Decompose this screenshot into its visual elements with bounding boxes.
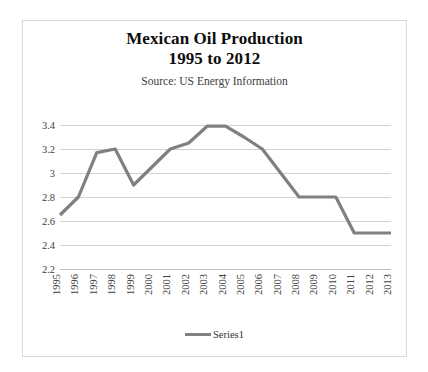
x-axis-tick-label: 2005 bbox=[235, 274, 246, 295]
legend-label-series1: Series1 bbox=[213, 329, 244, 340]
x-axis-tick-labels: 1995199619971998199920002001200220032004… bbox=[51, 273, 393, 295]
x-axis-tick-label: 2009 bbox=[308, 274, 319, 295]
y-axis-tick-label: 2.2 bbox=[42, 264, 55, 275]
y-axis-tick-label: 3.2 bbox=[42, 144, 55, 155]
x-axis-tick-label: 2013 bbox=[382, 274, 393, 295]
data-series-line bbox=[60, 126, 391, 233]
y-axis-tick-label: 2.4 bbox=[42, 240, 56, 251]
y-axis-tick-label: 2.6 bbox=[42, 216, 55, 227]
legend-swatch-series1 bbox=[185, 333, 211, 336]
x-axis-tick-label: 1996 bbox=[69, 274, 80, 295]
x-axis-tick-label: 2010 bbox=[327, 274, 338, 295]
chart-legend: Series1 bbox=[23, 324, 406, 342]
x-axis-tick-label: 2006 bbox=[253, 274, 264, 295]
x-axis-tick-label: 1997 bbox=[88, 274, 99, 295]
x-axis-tick-label: 2008 bbox=[290, 274, 301, 295]
x-axis-tick-label: 2001 bbox=[161, 274, 172, 295]
y-axis-tick-label: 3.4 bbox=[42, 120, 56, 131]
data-series-group bbox=[60, 126, 391, 233]
x-axis-tick-label: 1995 bbox=[51, 274, 62, 295]
y-axis-tick-labels: 3.43.232.82.62.42.2 bbox=[42, 120, 56, 275]
x-axis-tick-label: 2003 bbox=[198, 274, 209, 295]
y-axis-tick-label: 2.8 bbox=[42, 192, 55, 203]
gridlines-group bbox=[60, 126, 391, 270]
x-axis-tick-label: 2000 bbox=[143, 274, 154, 295]
x-axis-tick-label: 1998 bbox=[106, 274, 117, 295]
chart-plot-area: 3.43.232.82.62.42.2 19951996199719981999… bbox=[23, 21, 408, 358]
y-axis-tick-label: 3 bbox=[50, 168, 55, 179]
x-axis-tick-label: 1999 bbox=[125, 274, 136, 295]
x-axis-tick-label: 2012 bbox=[364, 274, 375, 295]
x-axis-tick-label: 2002 bbox=[180, 274, 191, 295]
x-axis-tick-label: 2011 bbox=[345, 274, 356, 295]
x-axis-tick-label: 2004 bbox=[217, 273, 228, 295]
chart-figure: Mexican Oil Production 1995 to 2012 Sour… bbox=[22, 20, 407, 357]
x-axis-tick-label: 2007 bbox=[272, 274, 283, 295]
